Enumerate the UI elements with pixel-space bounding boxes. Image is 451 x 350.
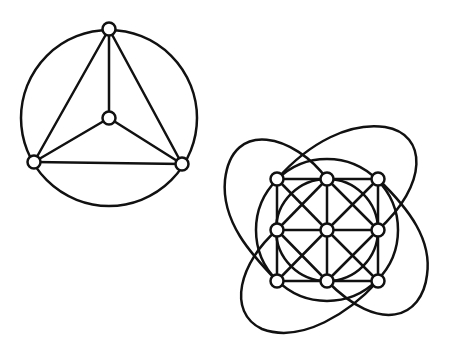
edge-right-center <box>109 118 182 164</box>
graph-k4-in-circle <box>21 23 197 207</box>
vertex-node-center <box>103 112 116 125</box>
vertex-node-left <box>28 156 41 169</box>
vertex-node-top <box>103 23 116 36</box>
graph-grid-3x3-king-graph <box>225 126 428 333</box>
edge-top-right <box>109 29 182 164</box>
vertex-node-TM <box>321 173 334 186</box>
vertex-node-MM <box>321 224 334 237</box>
vertex-node-TR <box>372 173 385 186</box>
vertex-node-BL <box>271 275 284 288</box>
vertex-node-TL <box>271 173 284 186</box>
vertex-node-ML <box>271 224 284 237</box>
vertex-node-BR <box>372 275 385 288</box>
vertex-node-MR <box>372 224 385 237</box>
edge-left-right <box>34 162 182 164</box>
vertex-node-right <box>176 158 189 171</box>
vertex-node-BM <box>321 275 334 288</box>
edge-top-left <box>34 29 109 162</box>
graph-drawings <box>21 23 428 333</box>
diagram-canvas <box>0 0 451 350</box>
